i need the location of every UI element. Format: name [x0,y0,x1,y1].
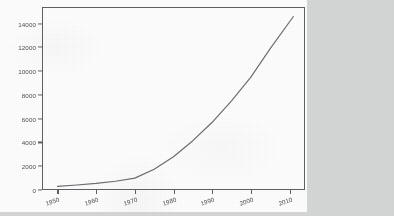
line-chart: 02000400060008000100001200014000 1950196… [0,0,307,212]
series-layer [0,0,307,212]
series-line-value [57,17,293,187]
paper-sheet: 02000400060008000100001200014000 1950196… [0,0,307,212]
scanned-page: 02000400060008000100001200014000 1950196… [0,0,394,216]
